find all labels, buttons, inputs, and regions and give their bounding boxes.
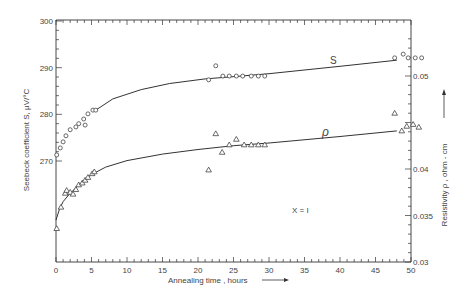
data-point-s	[249, 74, 253, 78]
y-right-tick-label: 0.03	[413, 258, 429, 267]
data-point-s	[94, 108, 98, 112]
y-right-tick-label: 0.04	[413, 165, 429, 174]
axes: 051015202530354045502702802903000.030.03…	[40, 17, 434, 275]
y-left-tick-label: 290	[40, 64, 54, 73]
data-points	[54, 52, 424, 230]
data-point-rho	[404, 123, 410, 128]
data-point-s	[420, 56, 424, 60]
data-point-rho	[226, 142, 232, 147]
x-tick-label: 10	[123, 266, 132, 275]
chart: 051015202530354045502702802903000.030.03…	[0, 0, 470, 295]
data-point-rho	[234, 136, 240, 141]
x-tick-label: 0	[54, 266, 59, 275]
data-point-s	[61, 140, 65, 144]
y-left-tick-label: 300	[40, 17, 54, 26]
data-point-s	[241, 74, 245, 78]
x-tick-label: 20	[194, 266, 203, 275]
data-point-rho	[399, 128, 405, 133]
data-point-s	[256, 74, 260, 78]
curve-label-rho: ρ	[321, 125, 329, 139]
x-tick-label: 35	[300, 266, 309, 275]
data-point-s	[227, 74, 231, 78]
x-tick-label: 15	[158, 266, 167, 275]
data-point-s	[401, 52, 405, 56]
fit-curve-rho	[56, 131, 397, 220]
data-point-s	[393, 56, 397, 60]
data-point-s	[58, 146, 62, 150]
fit-curve-s	[96, 60, 397, 110]
y-right-arrow	[442, 89, 446, 118]
chart-plot: 051015202530354045502702802903000.030.03…	[0, 0, 470, 295]
data-point-s	[77, 122, 81, 126]
curve-label-s: S	[330, 55, 337, 66]
data-point-rho	[416, 124, 422, 129]
data-point-s	[263, 74, 267, 78]
data-point-s	[86, 112, 90, 116]
data-point-rho	[213, 131, 219, 136]
y-right-tick-label: 0.035	[413, 212, 434, 221]
data-point-s	[64, 134, 68, 138]
data-point-s	[68, 128, 72, 132]
data-point-s	[55, 153, 59, 157]
data-point-rho	[54, 226, 60, 231]
y-right-tick-label: 0.05	[413, 72, 429, 81]
x-tick-label: 5	[89, 266, 94, 275]
y-left-axis-label: Seebeck coefficient S, μV/°C	[22, 89, 31, 192]
x-tick-label: 30	[265, 266, 274, 275]
data-point-rho	[206, 167, 212, 172]
y-left-tick-label: 280	[40, 110, 54, 119]
data-point-s	[207, 78, 211, 82]
x-tick-label: 50	[407, 266, 416, 275]
annotation-x: X = I	[292, 206, 309, 215]
data-point-s	[413, 56, 417, 60]
x-tick-label: 25	[229, 266, 238, 275]
data-point-s	[234, 74, 238, 78]
data-point-rho	[58, 204, 64, 209]
data-point-s	[214, 64, 218, 68]
data-point-s	[406, 56, 410, 60]
data-point-rho	[392, 110, 398, 115]
y-right-axis-label: Resistivity ρ , ohm - cm	[440, 143, 449, 226]
data-point-s	[82, 117, 86, 121]
data-point-rho	[73, 187, 79, 192]
fit-curves	[56, 60, 397, 220]
data-point-s	[83, 123, 87, 127]
y-left-tick-label: 270	[40, 157, 54, 166]
x-tick-label: 45	[371, 266, 380, 275]
x-tick-label: 40	[336, 266, 345, 275]
x-axis-arrow	[262, 278, 289, 282]
x-axis-label: Annealing time , hours	[168, 276, 248, 285]
data-point-s	[221, 74, 225, 78]
data-point-rho	[219, 149, 225, 154]
